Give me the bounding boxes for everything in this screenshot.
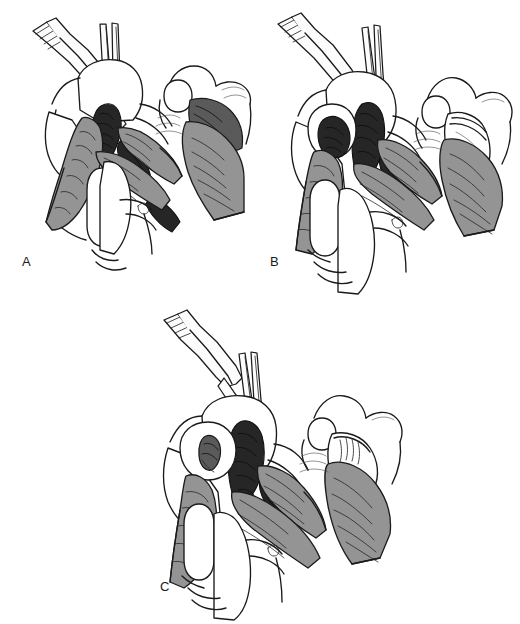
panel-c-main-view — [164, 310, 327, 620]
figure-root: A — [0, 0, 520, 624]
panel-b-main-view — [278, 13, 442, 294]
panel-label-b: B — [270, 255, 279, 268]
panel-a-main-view — [33, 18, 182, 270]
panel-label-c: C — [160, 580, 170, 593]
panel-c-inset-view — [300, 396, 402, 564]
retracted-structure — [308, 104, 356, 158]
panel-label-a: A — [22, 255, 31, 268]
panel-b-artwork — [252, 0, 520, 300]
panel-a-inset-view — [156, 66, 251, 220]
panel-a-artwork — [0, 0, 260, 300]
figure-panel-b: B — [252, 0, 520, 300]
reduced-structure — [180, 422, 236, 480]
panel-c-artwork — [118, 308, 408, 624]
figure-panel-c: C — [118, 308, 408, 624]
figure-panel-a: A — [0, 0, 260, 300]
